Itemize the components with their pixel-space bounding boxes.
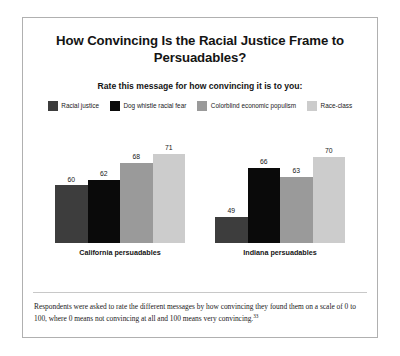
bar-rect <box>88 180 121 243</box>
bar-value-label: 68 <box>120 154 153 161</box>
bar-item: 60 <box>55 123 88 243</box>
legend-label: Racial justice <box>61 102 99 109</box>
bar-rect <box>248 168 281 243</box>
bar-value-label: 71 <box>153 145 186 152</box>
footnote-text: Respondents were asked to rate the diffe… <box>34 301 366 325</box>
bar-item: 49 <box>215 123 248 243</box>
bar-item: 70 <box>313 123 346 243</box>
legend-label: Colorblind economic populism <box>211 102 296 109</box>
footnote-divider <box>33 292 367 293</box>
legend-label: Race-class <box>321 102 353 109</box>
bar-group-california: 60 62 68 71 California persuadables <box>55 123 185 243</box>
bar-item: 66 <box>248 123 281 243</box>
bar-value-label: 60 <box>55 177 88 184</box>
legend-label: Dog whistle racial fear <box>123 102 186 109</box>
footnote-body: Respondents were asked to rate the diffe… <box>34 302 356 324</box>
chart-subtitle: Rate this message for how convincing it … <box>37 81 363 91</box>
bar-item: 62 <box>88 123 121 243</box>
bar-value-label: 66 <box>248 159 281 166</box>
bar-rect <box>313 157 346 243</box>
bar-rect <box>153 154 186 243</box>
bar-value-label: 63 <box>280 168 313 175</box>
legend-swatch-icon <box>197 101 207 111</box>
bar-item: 71 <box>153 123 186 243</box>
figure-panel: How Convincing Is the Racial Justice Fra… <box>22 17 378 338</box>
bar-rect <box>120 163 153 243</box>
group-axis-label: California persuadables <box>55 248 185 257</box>
legend-item: Race-class <box>307 101 352 111</box>
bar-value-label: 49 <box>215 208 248 215</box>
legend-item: Racial justice <box>48 101 99 111</box>
legend-item: Colorblind economic populism <box>197 101 296 111</box>
footnote-marker: 33 <box>253 313 258 319</box>
legend-swatch-icon <box>48 101 58 111</box>
bar-item: 63 <box>280 123 313 243</box>
chart-plot-area: 60 62 68 71 California persuadables <box>23 123 377 243</box>
bar-set: 49 66 63 70 <box>215 123 345 243</box>
chart-title: How Convincing Is the Racial Justice Fra… <box>41 32 359 67</box>
bar-group-indiana: 49 66 63 70 Indiana persuadables <box>215 123 345 243</box>
legend-swatch-icon <box>307 101 317 111</box>
bar-rect <box>55 185 88 242</box>
bar-value-label: 62 <box>88 171 121 178</box>
group-axis-label: Indiana persuadables <box>215 248 345 257</box>
bar-set: 60 62 68 71 <box>55 123 185 243</box>
bar-item: 68 <box>120 123 153 243</box>
bar-rect <box>280 177 313 243</box>
chart-legend: Racial justice Dog whistle racial fear C… <box>23 101 377 111</box>
bar-rect <box>215 217 248 243</box>
legend-swatch-icon <box>110 101 120 111</box>
bar-value-label: 70 <box>313 148 346 155</box>
legend-item: Dog whistle racial fear <box>110 101 186 111</box>
